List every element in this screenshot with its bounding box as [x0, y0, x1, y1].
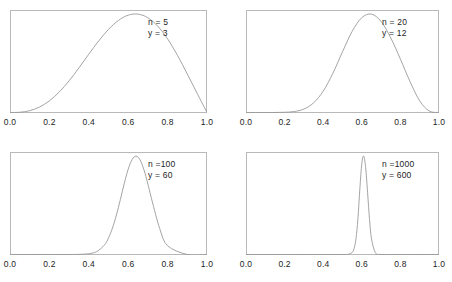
x-tick-label: 0.0 — [240, 117, 252, 127]
density-curve — [10, 10, 207, 113]
density-curve — [246, 10, 439, 113]
x-tick-label: 0.6 — [356, 117, 368, 127]
figure-canvas: n = 5y = 30.00.20.40.60.81.0n = 20y = 12… — [0, 0, 452, 282]
panel-top-left — [10, 10, 207, 113]
annotation-n: n = 5 — [148, 17, 168, 28]
x-tick-label: 0.8 — [161, 117, 173, 127]
x-tick-label: 0.4 — [83, 259, 95, 269]
x-tick-label: 0.6 — [356, 259, 368, 269]
curve-path — [246, 14, 439, 113]
x-tick-label: 0.0 — [240, 259, 252, 269]
x-tick-label: 1.0 — [201, 117, 213, 127]
x-tick-label: 1.0 — [201, 259, 213, 269]
x-axis: 0.00.20.40.60.81.0 — [10, 259, 207, 273]
annotation-y: y = 60 — [148, 170, 175, 181]
x-tick-label: 1.0 — [433, 259, 445, 269]
x-tick-label: 0.6 — [122, 259, 134, 269]
x-tick-label: 0.4 — [317, 117, 329, 127]
annotation-y: y = 12 — [382, 28, 407, 39]
annotation-n: n = 20 — [382, 17, 407, 28]
x-tick-label: 0.8 — [394, 259, 406, 269]
annotation-y: y = 600 — [382, 170, 414, 181]
x-axis: 0.00.20.40.60.81.0 — [10, 117, 207, 131]
panel-bottom-left — [10, 152, 207, 255]
x-tick-label: 0.2 — [278, 117, 290, 127]
x-axis: 0.00.20.40.60.81.0 — [246, 117, 439, 131]
annotation-n: n =100 — [148, 159, 175, 170]
panel-annotation: n =100y = 60 — [148, 159, 175, 180]
x-tick-label: 0.2 — [278, 259, 290, 269]
x-tick-label: 0.8 — [161, 259, 173, 269]
curve-path — [10, 156, 207, 255]
annotation-y: y = 3 — [148, 28, 168, 39]
panel-top-right — [246, 10, 439, 113]
curve-path — [10, 14, 207, 113]
x-axis: 0.00.20.40.60.81.0 — [246, 259, 439, 273]
x-tick-label: 0.8 — [394, 117, 406, 127]
x-tick-label: 0.0 — [4, 117, 16, 127]
panel-annotation: n = 5y = 3 — [148, 17, 168, 38]
x-tick-label: 0.6 — [122, 117, 134, 127]
x-tick-label: 0.4 — [317, 259, 329, 269]
annotation-n: n =1000 — [382, 159, 414, 170]
x-tick-label: 1.0 — [433, 117, 445, 127]
x-tick-label: 0.0 — [4, 259, 16, 269]
density-curve — [10, 152, 207, 255]
x-tick-label: 0.4 — [83, 117, 95, 127]
x-tick-label: 0.2 — [43, 259, 55, 269]
panel-annotation: n = 20y = 12 — [382, 17, 407, 38]
x-tick-label: 0.2 — [43, 117, 55, 127]
panel-annotation: n =1000y = 600 — [382, 159, 414, 180]
